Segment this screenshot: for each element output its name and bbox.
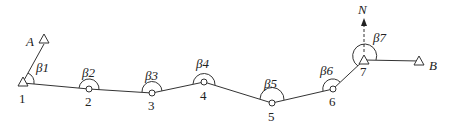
angle-label-7: β7	[372, 30, 386, 45]
angle-label-6: β6	[319, 63, 333, 78]
station-label-3: 3	[148, 98, 155, 113]
angle-label-3: β3	[144, 68, 158, 83]
station-2-circle-icon	[86, 86, 92, 92]
labels: A B 1 2 3 4 5 6 7 β1 β2 β3 β4 β5 β6 β7	[19, 30, 437, 124]
label-A: A	[25, 34, 34, 49]
angle-label-4: β4	[195, 56, 209, 71]
station-label-5: 5	[268, 109, 275, 124]
line-3-4	[152, 82, 204, 93]
traverse-diagram: N A B 1 2 3 4 5 6 7 β1 β2 β3 β4	[0, 0, 459, 125]
control-point-A-triangle-icon	[39, 34, 49, 43]
angle-label-1: β1	[35, 60, 49, 75]
station-6-circle-icon	[330, 86, 336, 92]
station-5-circle-icon	[269, 100, 275, 106]
station-3-circle-icon	[149, 90, 155, 96]
station-4-circle-icon	[201, 79, 207, 85]
label-B: B	[429, 58, 437, 73]
north-arrowhead-icon	[361, 18, 367, 26]
north-label: N	[357, 2, 368, 17]
angle-arc-1	[28, 73, 34, 84]
line-7-B	[364, 60, 419, 61]
station-label-4: 4	[200, 88, 207, 103]
station-1-triangle-icon	[18, 77, 28, 86]
station-label-6: 6	[329, 94, 336, 109]
angle-label-5: β5	[263, 76, 277, 91]
station-label-7: 7	[360, 64, 367, 79]
angle-label-2: β2	[81, 65, 95, 80]
station-label-1: 1	[19, 91, 26, 106]
station-label-2: 2	[85, 94, 92, 109]
station-7-triangle-icon	[359, 55, 369, 64]
